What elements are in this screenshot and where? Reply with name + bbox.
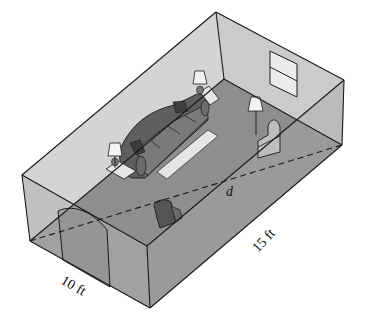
room-drawing: d 15 ft 10 ft bbox=[0, 0, 367, 326]
width-label: 10 ft bbox=[59, 273, 89, 299]
length-label: 15 ft bbox=[249, 226, 278, 255]
diagonal-label: d bbox=[226, 184, 234, 199]
room-diagram: d 15 ft 10 ft bbox=[0, 0, 367, 326]
